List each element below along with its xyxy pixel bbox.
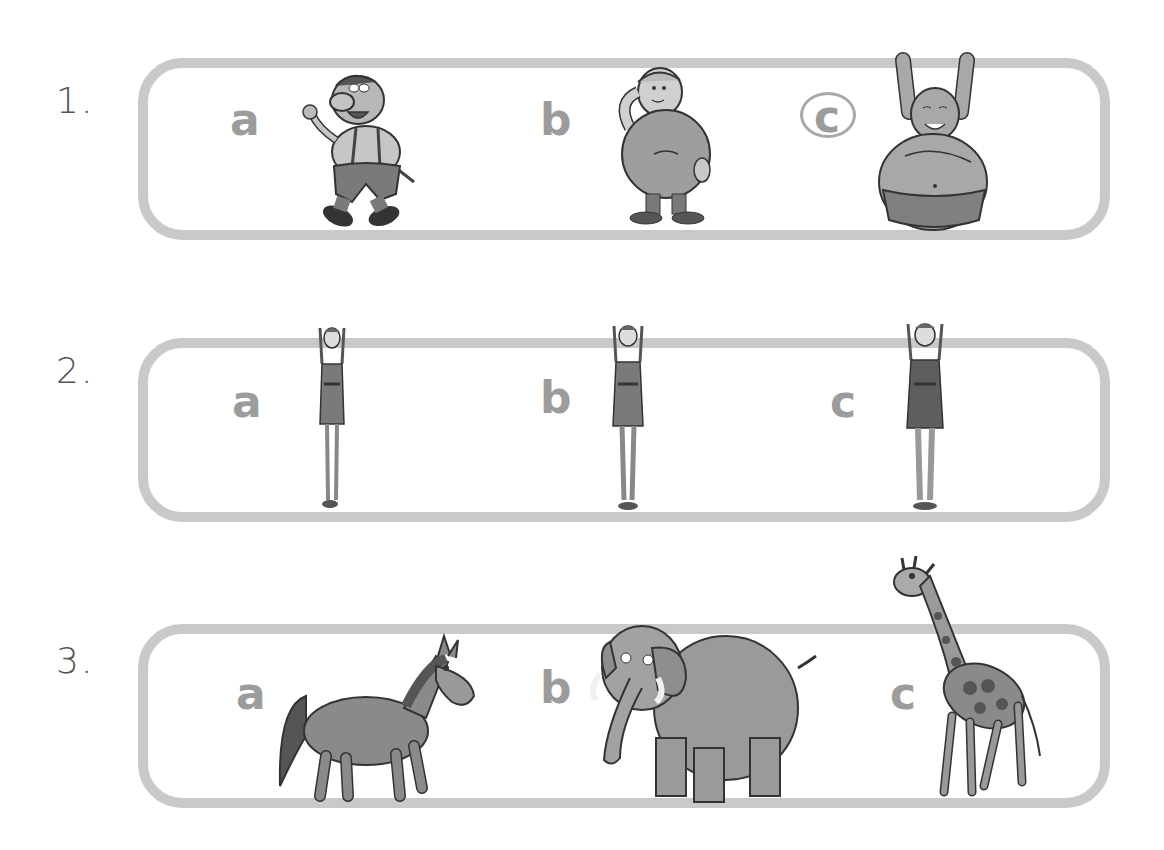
- option-letter: c: [814, 95, 840, 139]
- chubby-boy-picture: [608, 62, 718, 227]
- option-letter: c: [830, 380, 856, 424]
- row-number: 2.: [56, 350, 94, 391]
- fat-man-picture: [875, 52, 995, 234]
- row-number: 1.: [56, 80, 94, 121]
- option-letter: b: [540, 98, 572, 142]
- option-letter: b: [540, 666, 572, 710]
- option-letter: b: [540, 376, 572, 420]
- option-letter: a: [236, 672, 266, 716]
- girl-tall-picture: [900, 320, 950, 512]
- option-letter: a: [232, 380, 262, 424]
- giraffe-picture: [890, 556, 1050, 802]
- horse-picture: [276, 636, 476, 802]
- walking-man-picture: [296, 68, 436, 233]
- row-number: 3.: [56, 640, 94, 681]
- elephant-picture: [586, 618, 816, 808]
- girl-medium-picture: [606, 322, 650, 514]
- girl-short-picture: [312, 324, 352, 514]
- option-letter: a: [230, 98, 260, 142]
